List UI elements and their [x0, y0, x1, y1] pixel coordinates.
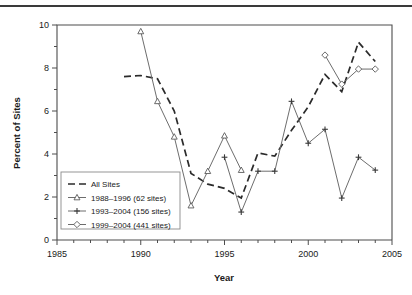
x-tick-label: 1995 [214, 249, 234, 259]
y-tick-label: 10 [39, 20, 49, 30]
y-tick-label: 6 [44, 106, 49, 116]
marker-triangle-icon [188, 203, 194, 208]
y-tick-label: 8 [44, 63, 49, 73]
y-axis-title: Percent of Sites [11, 97, 22, 169]
legend-label: 1999–2004 (441 sites) [91, 221, 171, 230]
marker-triangle-icon [171, 134, 177, 139]
x-tick-label: 2000 [298, 249, 318, 259]
x-axis-ticks [57, 240, 392, 245]
legend-label: All Sites [91, 180, 120, 189]
marker-triangle-icon [138, 28, 144, 33]
legend-label: 1993–2004 (156 sites) [91, 207, 171, 216]
y-tick-label: 4 [44, 149, 49, 159]
chart-figure: 19851990199520002005 0246810 Year Percen… [0, 0, 412, 295]
legend-label: 1988–1996 (62 sites) [91, 194, 167, 203]
x-tick-label: 1990 [131, 249, 151, 259]
marker-triangle-icon [205, 168, 211, 173]
x-tick-label: 1985 [47, 249, 67, 259]
x-tick-label: 2005 [382, 249, 402, 259]
y-axis-ticks [52, 25, 57, 240]
marker-triangle-icon [155, 98, 161, 103]
series-line [325, 55, 375, 84]
y-tick-label: 2 [44, 192, 49, 202]
y-axis-tick-labels: 0246810 [39, 20, 49, 245]
series-4 [322, 52, 379, 87]
marker-triangle-icon [222, 133, 228, 138]
chart-legend: All Sites1988–1996 (62 sites)1993–2004 (… [61, 172, 180, 230]
y-tick-label: 0 [44, 235, 49, 245]
marker-diamond-icon [372, 66, 378, 72]
series-3 [222, 98, 379, 215]
marker-triangle-icon [238, 167, 244, 172]
x-axis-title: Year [214, 272, 234, 283]
line-chart-svg: 19851990199520002005 0246810 Year Percen… [0, 0, 412, 295]
marker-diamond-icon [322, 52, 328, 58]
x-axis-tick-labels: 19851990199520002005 [47, 249, 402, 259]
